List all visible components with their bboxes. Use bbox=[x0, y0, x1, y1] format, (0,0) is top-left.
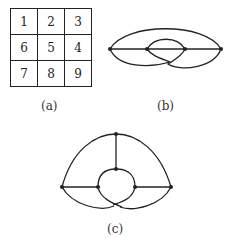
graph-b bbox=[108, 29, 223, 68]
caption-c: (c) bbox=[107, 222, 123, 236]
graph-diagrams bbox=[0, 0, 230, 241]
graph-c bbox=[60, 132, 173, 209]
caption-b: (b) bbox=[157, 99, 174, 113]
